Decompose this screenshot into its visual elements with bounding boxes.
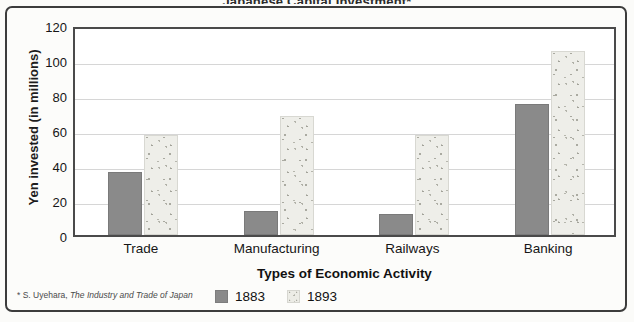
bars-layer (75, 29, 614, 235)
chart-legend: 18831893 (215, 288, 337, 304)
legend-item-1893: 1893 (287, 289, 337, 304)
legend-swatch-1893 (287, 290, 300, 303)
bar-railways-1893 (415, 135, 449, 235)
y-axis-tick-label: 60 (53, 125, 67, 140)
bar-manufacturing-1883 (244, 211, 278, 236)
x-axis-label-trade: Trade (123, 241, 158, 256)
bar-trade-1893 (144, 135, 178, 235)
y-axis-tick-label: 20 (53, 195, 67, 210)
x-axis-labels: TradeManufacturingRailwaysBanking (73, 241, 616, 261)
legend-swatch-1883 (215, 290, 228, 303)
chart-title: Japanese Capital Investment* (0, 0, 634, 4)
x-axis-label-railways: Railways (385, 241, 439, 256)
bar-banking-1883 (515, 104, 549, 235)
bar-manufacturing-1893 (280, 116, 314, 235)
legend-item-1883: 1883 (215, 289, 265, 304)
footnote-source-title: The Industry and Trade of Japan (70, 290, 193, 300)
bar-railways-1883 (379, 214, 413, 235)
y-axis-ticks: 020406080100120 (26, 27, 67, 237)
y-axis-tick-label: 80 (53, 90, 67, 105)
bar-banking-1893 (551, 51, 585, 235)
legend-label-1883: 1883 (235, 289, 265, 304)
source-footnote: * S. Uyehara, The Industry and Trade of … (17, 290, 193, 300)
legend-label-1893: 1893 (307, 289, 337, 304)
x-axis-label-banking: Banking (524, 241, 573, 256)
y-axis-tick-label: 0 (60, 230, 67, 245)
bar-trade-1883 (108, 172, 142, 235)
chart-figure: Japanese Capital Investment* Yen investe… (0, 0, 634, 322)
y-axis-tick-label: 40 (53, 160, 67, 175)
y-axis-tick-label: 120 (45, 20, 67, 35)
y-axis-tick-label: 100 (45, 55, 67, 70)
x-axis-title: Types of Economic Activity (73, 266, 616, 281)
footnote-prefix: * S. Uyehara, (17, 290, 70, 300)
x-axis-label-manufacturing: Manufacturing (234, 241, 320, 256)
plot-area (73, 27, 616, 237)
